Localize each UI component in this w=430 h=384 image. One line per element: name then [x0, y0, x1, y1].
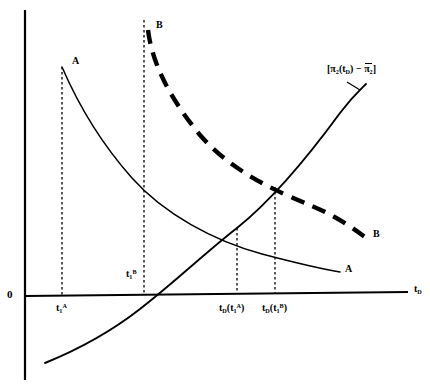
tick-label-t1b: t1B: [126, 269, 137, 279]
tick-t1a-sup: A: [62, 302, 66, 309]
tick-label-td-t1b: tD(t1B): [262, 303, 287, 313]
figure-canvas: A B A B [π2(tD) − π2] 0 tD t1A t1B tD(t1…: [0, 0, 430, 384]
expr-pi-bar-group: π2: [364, 64, 373, 74]
expression-leader-line: [347, 82, 360, 90]
tick-td-t1b-close: ): [284, 302, 287, 313]
expr-paren-close: ): [350, 63, 353, 74]
expr-minus: −: [356, 63, 362, 74]
x-axis: [25, 292, 408, 296]
curve-a: [62, 67, 340, 272]
tick-t1b-sup: B: [132, 268, 136, 275]
plot-area: [0, 0, 430, 384]
curve-b-right-label: B: [373, 229, 380, 239]
curve-b-top-label: B: [156, 20, 163, 30]
marginal-cost-expression-label: [π2(tD) − π2]: [327, 64, 376, 74]
origin-zero-label: 0: [7, 289, 13, 300]
tick-label-td-t1a: tD(t1A): [219, 303, 244, 313]
x-axis-label-sub: D: [417, 288, 421, 295]
tick-label-t1a: t1A: [56, 303, 67, 313]
expr-bracket-close: ]: [373, 63, 376, 74]
expr-pi-bar-sub: 2: [370, 68, 373, 75]
curve-a-top-label: A: [72, 56, 79, 66]
macron-bar-icon: [365, 63, 372, 64]
tick-td-t1a-close: ): [241, 302, 244, 313]
curve-b: [148, 30, 365, 237]
x-axis-label: tD: [414, 284, 422, 294]
curve-a-right-label: A: [345, 264, 352, 274]
